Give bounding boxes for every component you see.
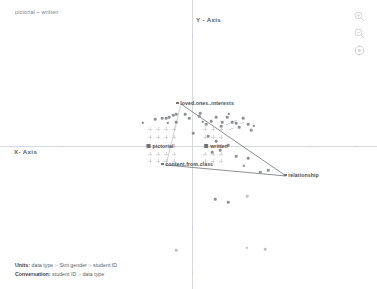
- units-label: Units:: [15, 262, 30, 268]
- centroid-pictorial[interactable]: pictorial: [146, 143, 173, 149]
- conversation-value: student ID :- data type: [51, 271, 105, 277]
- grid-cross-marker[interactable]: [164, 135, 168, 139]
- grid-cross-marker[interactable]: [156, 159, 160, 163]
- data-point[interactable]: [168, 116, 171, 119]
- grid-cross-marker[interactable]: [164, 127, 168, 131]
- data-point[interactable]: [246, 247, 248, 249]
- centroid-written[interactable]: written: [204, 143, 228, 149]
- grid-cross-marker[interactable]: [219, 152, 223, 156]
- vertex-label: content.from.class: [165, 161, 213, 167]
- units-value: data type :- Stnt gender :- student ID: [30, 262, 117, 268]
- data-point[interactable]: [175, 113, 178, 116]
- grid-cross-marker[interactable]: [203, 152, 207, 156]
- grid-cross-marker[interactable]: [203, 127, 207, 131]
- data-point[interactable]: [227, 201, 230, 204]
- data-point[interactable]: [142, 122, 144, 124]
- vertex-label: relationship: [288, 172, 319, 178]
- data-point[interactable]: [154, 118, 157, 121]
- data-point[interactable]: [167, 122, 169, 124]
- conversation-row: Conversation: student ID :- data type: [15, 270, 117, 279]
- data-point[interactable]: [199, 112, 202, 115]
- data-point[interactable]: [184, 113, 187, 116]
- grid-cross-marker[interactable]: [211, 135, 215, 139]
- data-point[interactable]: [247, 157, 250, 160]
- data-point[interactable]: [235, 155, 238, 158]
- centroid-marker-icon: [204, 144, 208, 148]
- data-point[interactable]: [267, 169, 270, 172]
- grid-cross-marker[interactable]: [148, 152, 152, 156]
- data-point[interactable]: [215, 140, 218, 143]
- grid-cross-marker[interactable]: [211, 152, 215, 156]
- data-point[interactable]: [247, 123, 250, 126]
- grid-cross-marker[interactable]: [219, 127, 223, 131]
- grid-cross-marker[interactable]: [219, 135, 223, 139]
- data-point[interactable]: [250, 129, 253, 132]
- grid-cross-marker[interactable]: [148, 127, 152, 131]
- data-point[interactable]: [215, 116, 218, 119]
- data-point[interactable]: [221, 121, 224, 124]
- grid-cross-marker[interactable]: [164, 152, 168, 156]
- data-point[interactable]: [198, 115, 201, 118]
- data-point[interactable]: [259, 171, 262, 174]
- grid-cross-marker[interactable]: [219, 159, 223, 163]
- vertex-marker-icon: [161, 163, 164, 166]
- micro-label: •••: [228, 126, 234, 132]
- units-row: Units: data type :- Stnt gender :- stude…: [15, 261, 117, 270]
- vertex-marker-icon: [176, 102, 179, 105]
- data-point[interactable]: [175, 249, 178, 252]
- vertex-relationship[interactable]: relationship: [284, 172, 319, 178]
- grid-cross-marker[interactable]: [148, 159, 152, 163]
- grid-cross-marker[interactable]: [172, 135, 176, 139]
- conversation-label: Conversation:: [15, 271, 51, 277]
- vertex-loved-ones-interests[interactable]: loved.ones..interests: [176, 100, 234, 106]
- footer-legend: Units: data type :- Stnt gender :- stude…: [15, 261, 117, 279]
- plot-canvas: pictorial ~ written X- Axis Y - Axis •••…: [0, 0, 377, 289]
- grid-cross-marker[interactable]: [156, 127, 160, 131]
- grid-cross-marker[interactable]: [172, 127, 176, 131]
- grid-cross-marker[interactable]: [211, 127, 215, 131]
- data-point[interactable]: [226, 116, 229, 119]
- data-point[interactable]: [246, 195, 249, 198]
- data-point[interactable]: [161, 117, 164, 120]
- micro-label: •••: [239, 120, 245, 126]
- grid-cross-marker[interactable]: [172, 152, 176, 156]
- vertex-marker-icon: [284, 174, 287, 177]
- grid-cross-marker[interactable]: [156, 135, 160, 139]
- grid-cross-marker[interactable]: [148, 135, 152, 139]
- centroid-marker-icon: [146, 144, 150, 148]
- grid-cross-marker[interactable]: [203, 135, 207, 139]
- data-point[interactable]: [210, 120, 213, 123]
- data-point[interactable]: [214, 198, 217, 201]
- vertex-content-from-class[interactable]: content.from.class: [161, 161, 213, 167]
- scatter-layer: ••••••••••••: [0, 0, 377, 289]
- grid-cross-marker[interactable]: [156, 152, 160, 156]
- data-point[interactable]: [205, 123, 208, 126]
- data-point[interactable]: [188, 117, 191, 120]
- data-point[interactable]: [192, 132, 195, 135]
- data-point[interactable]: [207, 135, 210, 138]
- data-point[interactable]: [175, 121, 178, 124]
- vertex-label: loved.ones..interests: [180, 100, 234, 106]
- centroid-label: written: [210, 143, 228, 149]
- data-point[interactable]: [243, 165, 245, 167]
- data-point[interactable]: [264, 248, 267, 251]
- data-point[interactable]: [219, 149, 222, 152]
- centroid-label: pictorial: [152, 143, 173, 149]
- data-point[interactable]: [253, 125, 255, 127]
- data-point[interactable]: [228, 113, 230, 115]
